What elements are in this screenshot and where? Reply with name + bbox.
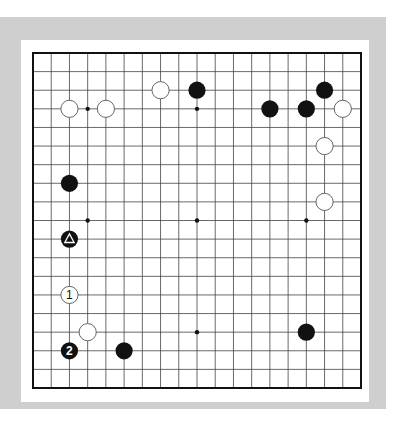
black-stone [61,175,78,192]
black-stone [188,82,205,99]
black-stone [116,342,133,359]
white-stone [61,100,78,117]
hoshi-point [85,218,89,222]
hoshi-point [195,330,199,334]
white-stone [316,193,333,210]
black-stone [298,100,315,117]
white-stone [316,137,333,154]
hoshi-point [195,107,199,111]
hoshi-point [195,218,199,222]
white-stone [97,100,114,117]
black-stone [261,100,278,117]
black-stone [298,324,315,341]
hoshi-point [304,218,308,222]
move-number-label: 2 [66,344,73,358]
go-board: 12 [0,0,403,426]
white-stone [79,324,96,341]
move-number-label: 1 [66,288,73,302]
white-stone [334,100,351,117]
white-stone [152,82,169,99]
hoshi-point [85,107,89,111]
black-stone [316,82,333,99]
